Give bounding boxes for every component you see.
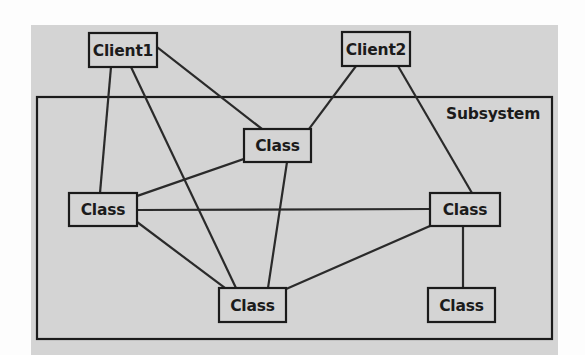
diagram-canvas: Subsystem Client1Client2ClassClassClassC… (0, 0, 585, 355)
node-class_bottom[interactable]: Class (219, 288, 286, 322)
node-label-class_mid: Class (255, 137, 300, 155)
class-diagram: Subsystem Client1Client2ClassClassClassC… (0, 0, 585, 355)
node-label-class_right: Class (443, 201, 488, 219)
node-class_left[interactable]: Class (69, 193, 137, 226)
node-client2[interactable]: Client2 (342, 32, 410, 66)
node-label-class_bottom: Class (230, 297, 275, 315)
node-label-class_left: Class (81, 201, 126, 219)
association-edge-class_left-class_right (137, 209, 430, 210)
node-class_mid[interactable]: Class (244, 129, 311, 162)
node-label-client1: Client1 (93, 42, 153, 60)
node-client1[interactable]: Client1 (89, 33, 157, 67)
subsystem-label: Subsystem (446, 105, 540, 123)
node-label-client2: Client2 (346, 41, 406, 59)
node-class_right[interactable]: Class (430, 193, 500, 226)
node-class_br[interactable]: Class (428, 288, 495, 322)
node-label-class_br: Class (439, 297, 484, 315)
